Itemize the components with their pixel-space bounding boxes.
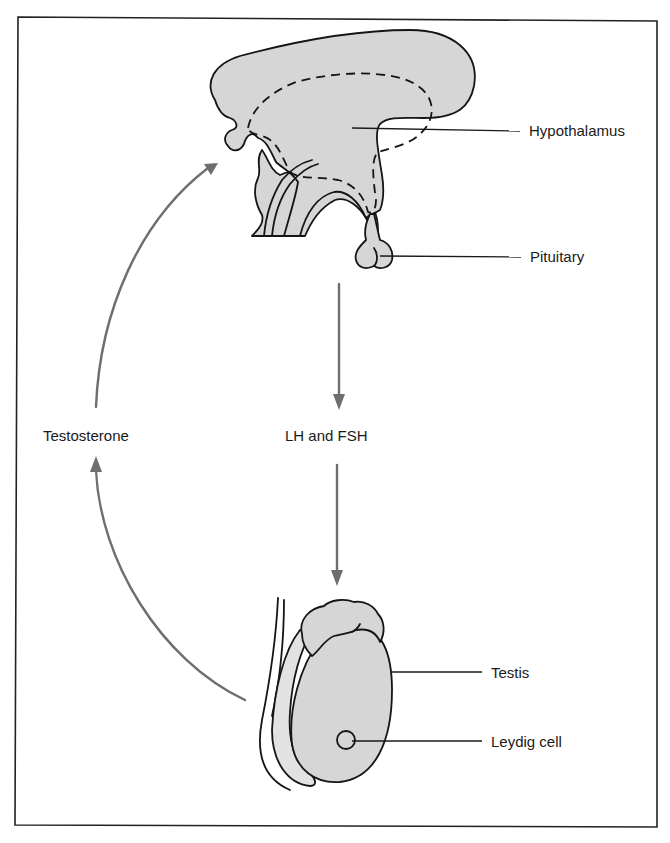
gonadotropin-arrow-lower	[331, 465, 343, 586]
arrowhead-up-icon	[90, 456, 102, 472]
pituitary-label: Pituitary	[530, 248, 585, 265]
testosterone-label: Testosterone	[43, 427, 129, 444]
lh-fsh-label: LH and FSH	[285, 427, 368, 444]
leydig-cell-label: Leydig cell	[491, 733, 562, 750]
diagram-canvas: Hypothalamus Pituitary LH and FSH Testos…	[0, 0, 670, 843]
arrowhead-down-icon	[333, 394, 345, 410]
gonadotropin-arrow-upper	[333, 284, 345, 410]
testosterone-arrow-upper	[96, 163, 218, 407]
hypothalamus-pituitary-illustration	[211, 30, 475, 268]
leydig-cell-shape	[337, 731, 355, 749]
testis-label: Testis	[491, 664, 529, 681]
pituitary-leader-line	[380, 256, 521, 257]
hypothalamus-label: Hypothalamus	[529, 122, 625, 139]
pituitary-shape	[356, 214, 393, 268]
testosterone-arrow-lower	[90, 456, 245, 700]
testis-illustration	[260, 598, 392, 790]
hypothalamus-shape	[211, 30, 475, 236]
arrowhead-down-icon	[331, 570, 343, 586]
